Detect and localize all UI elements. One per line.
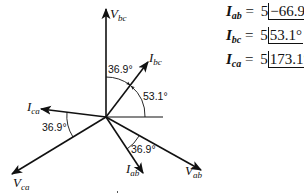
eq-magnitude: 5 bbox=[260, 51, 268, 67]
eq-magnitude: 5 bbox=[260, 27, 268, 43]
angle-label-vbc-ibc: 36.9° bbox=[108, 63, 133, 75]
angle-arc-ica-vca bbox=[67, 112, 73, 137]
phasor-ica bbox=[41, 109, 106, 117]
equation-iab: Iab = 5−66.9° bbox=[226, 3, 304, 21]
label-vbc: Vbc bbox=[110, 6, 126, 23]
angle-label-ica-vca: 36.9° bbox=[42, 121, 67, 133]
label-vca: Vca bbox=[13, 175, 30, 192]
angle-arc-vbc-ibc bbox=[106, 77, 130, 85]
eq-sign: = bbox=[246, 3, 254, 19]
angle-label-iab-vab: 36.9° bbox=[131, 143, 156, 155]
equation-ibc: Ibc = 553.1° bbox=[226, 27, 303, 45]
eq-sign: = bbox=[245, 51, 253, 67]
eq-angle: −66.9° bbox=[268, 3, 304, 20]
artifact-mark bbox=[117, 191, 118, 193]
eq-sign: = bbox=[245, 27, 253, 43]
equation-ica: Ica = 5173.1° bbox=[226, 51, 304, 69]
angle-label-ref-ibc: 53.1° bbox=[143, 90, 168, 102]
eq-angle: 173.1° bbox=[268, 51, 304, 68]
eq-sub: bc bbox=[232, 34, 241, 45]
eq-sub: ab bbox=[232, 10, 242, 21]
eq-sub: ca bbox=[232, 58, 241, 69]
eq-angle: 53.1° bbox=[268, 27, 303, 44]
label-ica: Ica bbox=[26, 99, 40, 116]
label-ibc: Ibc bbox=[148, 50, 162, 67]
